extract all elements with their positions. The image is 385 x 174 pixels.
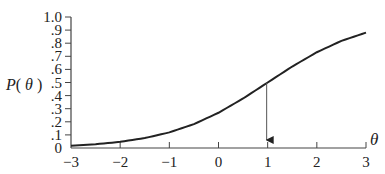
x-tick-label: 1 xyxy=(264,154,272,170)
y-ticks: 0.1.2.3.4.5.6.7.8.91.0 xyxy=(43,9,71,156)
x-tick-label: 0 xyxy=(215,154,223,170)
y-tick-label: 1.0 xyxy=(43,9,62,25)
x-tick-label: −1 xyxy=(161,154,177,170)
x-tick-label: −2 xyxy=(112,154,128,170)
x-ticks: −3−2−10123 xyxy=(63,142,370,170)
chart: 0.1.2.3.4.5.6.7.8.91.0 −3−2−10123 P( θ )… xyxy=(0,0,385,174)
x-axis-title: θ xyxy=(370,130,378,149)
y-axis-title: P( θ ) xyxy=(5,76,42,94)
x-tick-label: −3 xyxy=(63,154,79,170)
x-tick-label: 3 xyxy=(362,154,370,170)
icc-curve xyxy=(71,33,366,146)
x-tick-label: 2 xyxy=(313,154,321,170)
